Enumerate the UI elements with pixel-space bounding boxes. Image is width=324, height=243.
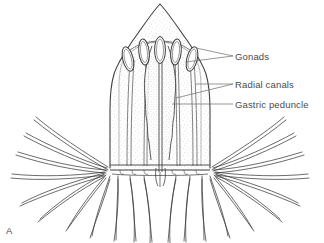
tentacle-r9 [202,176,206,241]
tentacle-r7 [214,175,254,231]
manubrium-lip-right [163,168,165,186]
panel-letter: A [6,225,12,236]
tentacle-l6 [38,174,104,222]
hydromedusa-illustration [0,0,324,243]
label-radial-canals: Radial canals [235,79,294,90]
gonad-3 [155,37,166,64]
label-gonads: Gonads [235,51,269,62]
tentacle-r11 [168,176,176,243]
tentacle-l4 [11,172,105,179]
tentacle-r4 [215,172,309,179]
tentacle-l3 [16,152,106,173]
tentacle-r10 [184,176,190,242]
tentacle-l10 [130,176,136,242]
tentacle-r1 [212,117,286,170]
leader-gonads-a [196,48,233,56]
manubrium-lip-left [156,168,158,186]
tentacle-l9 [114,176,118,241]
tentacle-l2 [24,133,107,171]
tentacle-l1 [34,117,108,170]
tentacle-r3 [214,152,304,173]
figure-root: Gonads Radial canals Gastric peduncle A [0,0,324,243]
tentacle-l11 [144,176,152,243]
tentacle-r6 [216,174,282,222]
tentacle-l7 [66,175,106,231]
label-gastric-peduncle: Gastric peduncle [235,99,309,110]
tentacle-r2 [213,133,296,171]
